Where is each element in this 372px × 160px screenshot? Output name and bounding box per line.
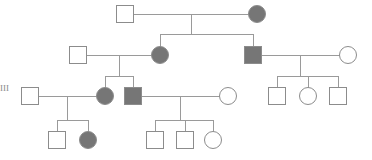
pedigree-canvas — [0, 0, 372, 160]
individual-ii-4-female-unaffected — [340, 47, 357, 64]
individual-iv-4-male-unaffected — [177, 132, 194, 149]
individual-iv-2-female-affected — [80, 132, 97, 149]
individual-iii-6-female-unaffected — [300, 88, 317, 105]
individual-iv-1-male-unaffected — [49, 132, 66, 149]
individual-ii-2-female-affected — [152, 47, 169, 64]
individual-iii-4-female-unaffected — [220, 88, 237, 105]
individual-i-1-male-unaffected — [117, 6, 134, 23]
connector-lines — [39, 14, 340, 132]
individual-iv-3-male-unaffected — [147, 132, 164, 149]
individual-i-2-female-affected — [249, 6, 266, 23]
individual-iv-5-female-unaffected — [205, 132, 222, 149]
individual-iii-5-male-unaffected — [269, 88, 286, 105]
individual-iii-1-male-unaffected — [22, 88, 39, 105]
gen-label-iii: III — [0, 84, 9, 93]
individual-iii-2-female-affected — [97, 88, 114, 105]
individual-iii-7-male-unaffected — [330, 88, 347, 105]
individual-ii-3-male-affected — [245, 47, 262, 64]
pedigree-chart: III — [0, 0, 372, 160]
individual-ii-1-male-unaffected — [70, 47, 87, 64]
individual-symbols — [22, 6, 357, 149]
individual-iii-3-male-affected — [125, 88, 142, 105]
